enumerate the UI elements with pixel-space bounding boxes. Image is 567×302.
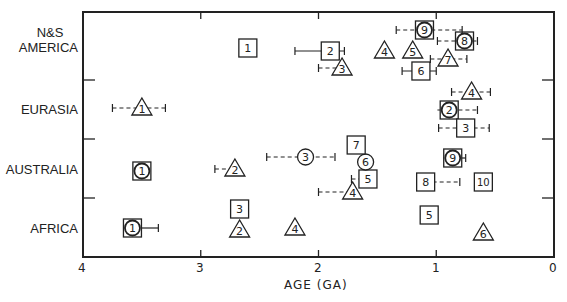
plot-area: 123456789123412345678910123456: [0, 0, 567, 302]
marker-label: 6: [362, 156, 369, 169]
marker-label: 2: [236, 225, 243, 238]
data-point: 3: [267, 149, 335, 165]
marker-label: 8: [422, 176, 429, 189]
marker-label: 3: [339, 63, 346, 76]
row-label-eurasia: EURASIA: [8, 102, 78, 117]
data-point: 1: [112, 98, 165, 116]
x-tick-0: 0: [549, 261, 557, 275]
row-label-america: N&S AMERICA: [8, 25, 78, 55]
marker-label: 1: [138, 165, 145, 178]
data-point: 4: [452, 82, 491, 100]
data-point: 3: [231, 200, 249, 218]
data-point: 1: [133, 162, 151, 180]
data-point: 3: [319, 58, 353, 76]
marker-label: 4: [381, 46, 388, 59]
x-tick-1: 1: [432, 261, 440, 275]
marker-label: 5: [364, 173, 371, 186]
data-point: 5: [420, 206, 438, 224]
data-point: 1: [123, 219, 158, 237]
x-tick-4: 4: [78, 261, 86, 275]
row-label-australia: AUSTRALIA: [0, 162, 78, 177]
marker-label: 10: [477, 177, 490, 188]
data-point: 1: [239, 39, 257, 57]
marker-label: 3: [236, 203, 243, 216]
data-point: 8: [437, 32, 477, 50]
data-point: 7: [347, 136, 365, 154]
marker-label: 5: [426, 209, 433, 222]
marker-label: 1: [129, 222, 136, 235]
data-point: 5: [403, 41, 423, 59]
data-point: 4: [285, 218, 305, 236]
data-point: 8: [417, 173, 460, 191]
data-point: 9: [396, 21, 462, 39]
data-point: 9: [443, 149, 465, 167]
data-point: 2: [295, 42, 344, 60]
marker-label: 4: [468, 87, 475, 100]
data-point: 6: [358, 154, 374, 170]
row-label-america-line2: AMERICA: [8, 40, 78, 55]
marker-label: 4: [349, 187, 356, 200]
data-point: 10: [474, 173, 492, 191]
marker-label: 4: [291, 223, 298, 236]
marker-label: 3: [462, 122, 469, 135]
marker-label: 6: [480, 228, 487, 241]
x-axis-title: AGE (GA): [284, 278, 348, 292]
row-label-america-line1: N&S: [8, 25, 78, 40]
marker-label: 2: [231, 164, 238, 177]
data-point: 2: [230, 220, 250, 238]
data-point: 3: [439, 119, 490, 137]
marker-label: 9: [449, 152, 456, 165]
marker-label: 1: [244, 42, 251, 55]
data-point: 7: [430, 49, 467, 67]
data-point: 4: [374, 41, 394, 59]
marker-label: 9: [421, 24, 428, 37]
marker-label: 3: [302, 151, 309, 164]
data-point: 4: [319, 182, 363, 200]
data-point: 2: [437, 101, 477, 119]
marker-label: 5: [409, 46, 416, 59]
marker-label: 1: [138, 103, 145, 116]
x-tick-2: 2: [314, 261, 322, 275]
data-point: 6: [402, 62, 436, 80]
marker-label: 6: [417, 65, 424, 78]
age-chart: 123456789123412345678910123456 N&S AMERI…: [0, 0, 567, 302]
marker-label: 2: [446, 104, 453, 117]
plot-frame: [83, 12, 554, 257]
data-point: 2: [215, 159, 245, 177]
marker-label: 8: [461, 35, 468, 48]
marker-label: 7: [353, 139, 360, 152]
marker-label: 7: [445, 54, 452, 67]
x-tick-3: 3: [196, 261, 204, 275]
data-point: 6: [473, 223, 493, 241]
marker-label: 2: [327, 45, 334, 58]
row-label-africa: AFRICA: [8, 221, 78, 236]
